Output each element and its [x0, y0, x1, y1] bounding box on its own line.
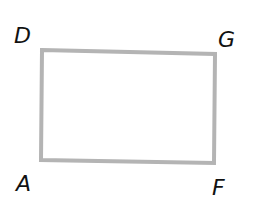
vertex-label-g: G [218, 27, 235, 52]
rectangle-diagram: D G F A [0, 0, 256, 201]
vertex-label-d: D [14, 23, 31, 48]
vertex-label-f: F [212, 175, 225, 200]
vertex-label-a: A [14, 171, 31, 196]
rectangle-dgfa [41, 50, 215, 163]
